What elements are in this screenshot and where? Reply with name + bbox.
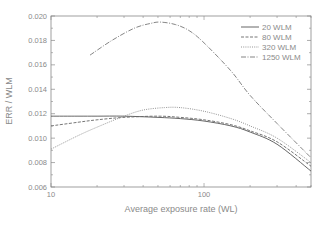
legend-label: 20 WLM [262,23,292,32]
y-tick-label: 0.014 [28,85,47,94]
y-axis-label: ERR / WLM [4,77,14,125]
y-tick-label: 0.006 [28,183,47,192]
x-tick-label: 100 [198,190,211,199]
y-tick-label: 0.008 [28,158,47,167]
legend-label: 1250 WLM [262,53,301,62]
legend-label: 320 WLM [262,43,297,52]
x-tick-label: 10 [47,190,55,199]
chart: 0.0060.0080.0100.0120.0140.0160.0180.020… [0,0,323,225]
legend: 20 WLM80 WLM320 WLM1250 WLM [241,23,301,62]
y-tick-label: 0.010 [28,134,47,143]
y-tick-label: 0.018 [28,36,47,45]
series-line [51,107,311,162]
y-tick-label: 0.020 [28,12,47,21]
legend-label: 80 WLM [262,33,292,42]
x-axis-label: Average exposure rate (WL) [125,204,238,214]
y-tick-label: 0.012 [28,109,47,118]
y-tick-label: 0.016 [28,60,47,69]
series-line [51,116,311,171]
